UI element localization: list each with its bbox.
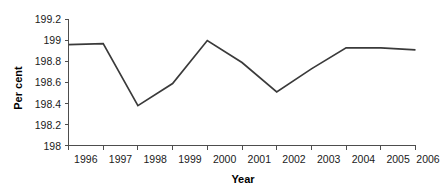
x-tick-label-2001: 2001 [248,153,272,165]
x-tick-label-2004: 2004 [352,153,376,165]
chart-canvas: Per cent 199.2 199 198.8 198.6 198.4 198… [0,0,440,193]
y-tick-marks [65,20,69,146]
data-series-line [69,41,416,106]
x-tick-marks [69,146,416,150]
y-tick-label-199: 199 [43,34,61,46]
x-tick-label-2000: 2000 [213,153,237,165]
x-tick-label-1999: 1999 [178,153,202,165]
y-tick-label-198-2: 198.2 [35,119,61,131]
x-tick-label-1997: 1997 [109,153,133,165]
line-chart: Per cent 199.2 199 198.8 198.6 198.4 198… [0,0,440,193]
y-tick-label-198-4: 198.4 [35,98,61,110]
y-tick-label-198-8: 198.8 [35,55,61,67]
x-tick-label-2002: 2002 [282,153,306,165]
y-axis-title: Per cent [12,66,24,110]
x-tick-label-2005: 2005 [386,153,410,165]
x-tick-label-2006: 2006 [416,153,440,165]
y-tick-label-198: 198 [43,140,61,152]
y-tick-label-198-6: 198.6 [35,76,61,88]
x-tick-label-1996: 1996 [74,153,98,165]
x-tick-label-1998: 1998 [144,153,168,165]
x-tick-label-2003: 2003 [317,153,341,165]
y-tick-label-199-2: 199.2 [35,13,61,25]
x-axis-title: Year [231,173,255,185]
